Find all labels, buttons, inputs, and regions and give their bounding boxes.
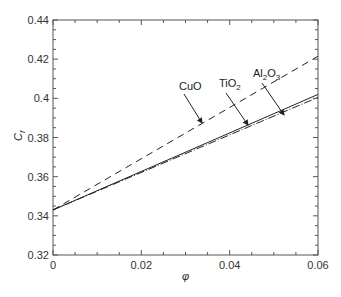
y-tick-label: 0.38 bbox=[28, 132, 49, 144]
x-tick-label: 0 bbox=[50, 259, 56, 271]
arrow-tio2 bbox=[226, 93, 248, 125]
y-tick-label: 0.4 bbox=[34, 92, 49, 104]
annotation-cuo: CuO bbox=[179, 80, 202, 123]
x-tick-label: 0.04 bbox=[219, 259, 240, 271]
x-axis-label: φ bbox=[182, 270, 189, 282]
y-tick-label: 0.32 bbox=[28, 249, 49, 261]
label-tio2: TiO2 bbox=[219, 77, 241, 92]
y-tick-label: 0.36 bbox=[28, 171, 49, 183]
plot-frame bbox=[53, 20, 318, 255]
axes: 0.320.340.360.380.40.420.4400.020.040.06 bbox=[28, 14, 329, 271]
y-tick-label: 0.42 bbox=[28, 53, 49, 65]
y-tick-label: 0.34 bbox=[28, 210, 49, 222]
label-al2o3: Al2O3 bbox=[253, 67, 281, 82]
arrow-cuo bbox=[184, 94, 202, 123]
y-tick-label: 0.44 bbox=[28, 14, 49, 26]
series-al2o3 bbox=[53, 97, 318, 210]
label-cuo: CuO bbox=[179, 80, 202, 92]
x-tick-label: 0.06 bbox=[307, 259, 328, 271]
annotation-tio2: TiO2 bbox=[219, 77, 248, 125]
annotation-al2o3: Al2O3 bbox=[253, 67, 284, 115]
arrow-al2o3 bbox=[262, 83, 284, 115]
chart: 0.320.340.360.380.40.420.4400.020.040.06… bbox=[0, 0, 341, 297]
y-axis-label: Cf bbox=[12, 130, 27, 141]
x-tick-label: 0.02 bbox=[131, 259, 152, 271]
